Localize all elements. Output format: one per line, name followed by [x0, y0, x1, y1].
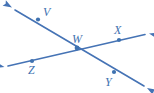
point-label-x: X — [113, 23, 122, 37]
intersecting-lines-svg: V W X Y Z — [0, 0, 154, 93]
point-w-dot — [75, 46, 80, 51]
point-label-w: W — [72, 32, 83, 46]
point-v-dot — [36, 17, 40, 21]
geometry-figure: V W X Y Z — [0, 0, 154, 93]
point-y-dot — [112, 70, 116, 74]
point-label-z: Z — [28, 63, 35, 77]
point-x-dot — [117, 38, 121, 42]
